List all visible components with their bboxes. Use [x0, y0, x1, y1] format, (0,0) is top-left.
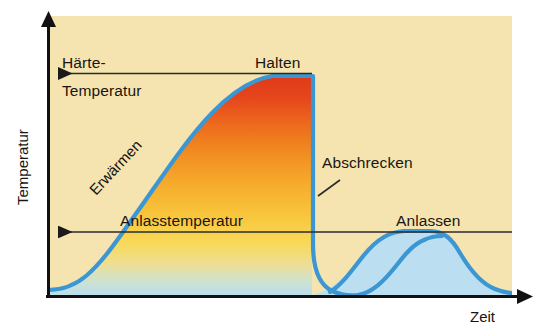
hardening-temperature-label-line1: Härte- [62, 54, 106, 71]
tempering-label: Anlassen [396, 212, 461, 229]
heat-treatment-diagram: Temperatur Zeit Härte- Temperatur Halten… [0, 0, 555, 328]
tempering-temperature-label: Anlasstemperatur [120, 212, 243, 229]
x-axis-label: Zeit [470, 308, 496, 325]
hardening-temperature-label-line2: Temperatur [62, 82, 141, 99]
x-axis-arrowhead [517, 289, 533, 304]
y-axis-label: Temperatur [14, 129, 31, 205]
diagram-canvas: Temperatur Zeit Härte- Temperatur Halten… [0, 0, 555, 328]
hold-label: Halten [255, 54, 300, 71]
quench-label: Abschrecken [322, 154, 413, 171]
